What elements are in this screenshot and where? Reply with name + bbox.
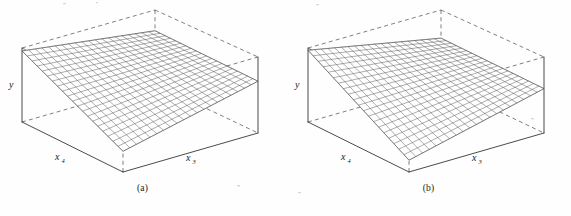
figure-container: y x 4 x 3 (a) — [0, 0, 571, 216]
y-axis-label-b: y — [294, 79, 300, 90]
x3-axis-label-b: x — [471, 152, 477, 163]
x4-axis-label-a: x — [54, 151, 60, 162]
x3-axis-label-a: x — [185, 152, 191, 163]
mesh-surface-b — [308, 38, 544, 160]
x4-axis-subscript-a: 4 — [62, 157, 66, 164]
panel-caption-b: (b) — [286, 183, 571, 193]
mesh-surface-a — [22, 31, 258, 152]
surface-plot-panel-b: y x 4 x 3 (b) — [286, 0, 571, 216]
surface-plot-panel-a: y x 4 x 3 (a) — [0, 0, 285, 216]
y-axis-label-a: y — [8, 79, 14, 90]
panel-caption-a: (a) — [0, 183, 285, 193]
x4-axis-label-b: x — [340, 151, 346, 162]
x3-axis-subscript-b: 3 — [478, 158, 483, 165]
x3-axis-subscript-a: 3 — [192, 158, 197, 165]
x4-axis-subscript-b: 4 — [348, 157, 352, 164]
